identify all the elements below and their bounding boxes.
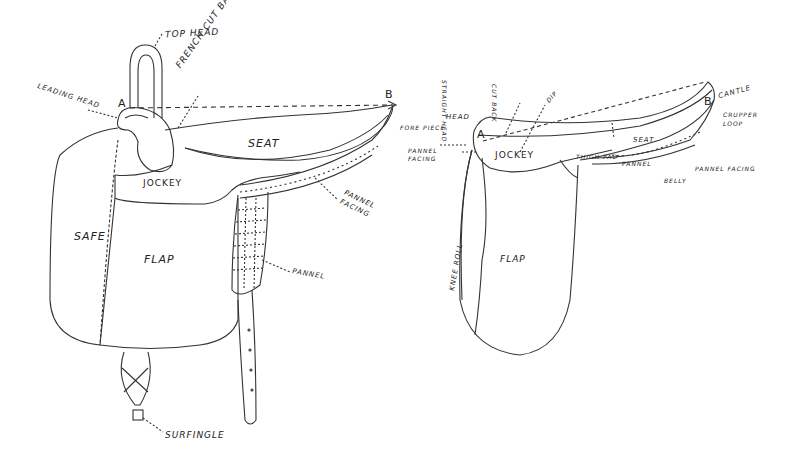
jockey-shape [115,172,300,204]
label-jockey: JOCKEY [143,178,182,188]
label-pannel-right: PANNEL [622,160,652,167]
saddle-diagram [0,0,799,458]
label-point-b-right: B [704,95,713,108]
label-seat-right: SEAT [633,136,654,144]
label-straight-head: STRAIGHT HEAD [441,80,448,142]
label-pannel-facing-left: PANNEL FACING [408,147,444,163]
pannel-shape [232,192,268,294]
label-surfingle: SURFINGLE [165,430,225,440]
label-flap: FLAP [144,253,175,266]
label-crupper-loop: CRUPPER LOOP [723,110,763,128]
label-pannel-facing-right: PANNEL FACING [695,165,756,172]
label-safe: SAFE [74,230,106,243]
label-head: HEAD [446,113,470,121]
label-belly: BELLY [664,177,687,184]
label-jockey-right: JOCKEY [495,150,534,160]
label-seat: SEAT [248,137,279,150]
label-fore-piece: FORE PIECE [400,124,445,131]
label-cut-back: CUT BACK [491,84,498,123]
label-flap-right: FLAP [500,254,526,264]
surfingle-shape [121,352,150,405]
label-thigh-pad: THIGH PAD [576,153,618,160]
girth-strap-shape [238,290,256,424]
right-seat-shape [474,82,714,160]
right-flap-shape [460,150,578,355]
knee-roll-shape [461,150,486,335]
label-point-b-left: B [385,88,394,101]
label-point-a-left: A [118,97,127,110]
label-point-a-right: A [477,128,486,141]
flap-shape [100,198,238,349]
